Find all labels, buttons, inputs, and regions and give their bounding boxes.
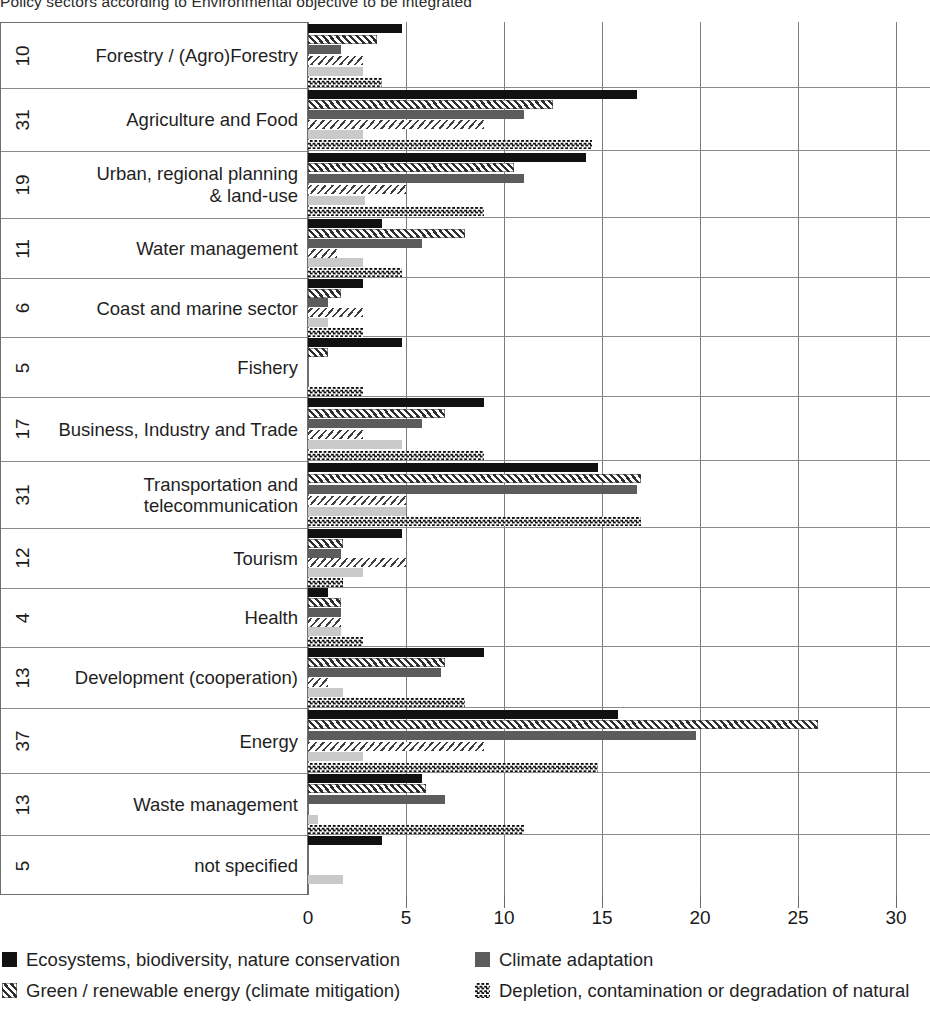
legend-swatch-solid-gray-icon	[475, 952, 490, 967]
category-name: Forestry / (Agro)Forestry	[45, 45, 307, 66]
bar-series-1	[308, 720, 818, 729]
bar-series-2	[308, 549, 341, 558]
bar-group-row	[308, 528, 930, 587]
legend-item-0: Ecosystems, biodiversity, nature conserv…	[2, 949, 400, 971]
bar-series-0	[308, 774, 422, 783]
category-row-label: 5Fishery	[1, 338, 307, 397]
bar-series-2	[308, 298, 328, 307]
bar-series-2	[308, 485, 637, 494]
bar-group-row	[308, 588, 930, 647]
bar-series-3	[308, 120, 484, 129]
bar-series-1	[308, 100, 553, 109]
bar-series-1	[308, 163, 514, 172]
bar-series-1	[308, 289, 341, 298]
category-count: 10	[1, 45, 45, 67]
bar-series-3	[308, 249, 337, 258]
bar-series-1	[308, 474, 641, 483]
bar-series-3	[308, 185, 406, 194]
bar-series-3	[308, 430, 363, 439]
bar-series-3	[308, 496, 406, 505]
category-row-label: 10Forestry / (Agro)Forestry	[1, 23, 307, 89]
bar-series-1	[308, 658, 445, 667]
bar-series-5	[308, 140, 592, 149]
legend-swatch-checkerboard-icon	[475, 983, 490, 998]
category-name: Water management	[45, 238, 307, 259]
bar-series-0	[308, 588, 328, 597]
category-count: 19	[1, 174, 45, 196]
category-name: Development (cooperation)	[45, 667, 307, 688]
bar-series-2	[308, 731, 696, 740]
bar-series-4	[308, 258, 363, 267]
bar-series-0	[308, 463, 598, 472]
category-count: 37	[1, 730, 45, 752]
x-axis: 051015202530	[0, 895, 930, 933]
bar-series-5	[308, 637, 363, 646]
bar-series-4	[308, 440, 402, 449]
category-row-label: 11Water management	[1, 219, 307, 279]
bar-series-4	[308, 67, 363, 76]
category-row-label: 13Waste management	[1, 774, 307, 835]
x-tick-label-0: 0	[303, 907, 314, 929]
bar-series-5	[308, 328, 363, 337]
bar-series-5	[308, 825, 524, 834]
bar-series-4	[308, 318, 328, 327]
category-name: Tourism	[45, 548, 307, 569]
category-label-column: 10Forestry / (Agro)Forestry31Agriculture…	[0, 22, 308, 895]
bar-series-1	[308, 229, 465, 238]
bar-series-4	[308, 507, 406, 516]
bar-series-0	[308, 398, 484, 407]
bar-series-3	[308, 308, 363, 317]
bar-series-1	[308, 598, 341, 607]
bar-series-4	[308, 875, 343, 884]
bar-series-4	[308, 196, 365, 205]
bar-series-5	[308, 207, 484, 216]
bar-series-5	[308, 78, 382, 87]
bar-group-row	[308, 151, 930, 218]
category-row-label: 4Health	[1, 589, 307, 648]
bar-series-4	[308, 815, 318, 824]
bar-series-4	[308, 568, 363, 577]
category-count: 4	[1, 607, 45, 629]
bar-series-1	[308, 784, 426, 793]
x-tick-label-25: 25	[787, 907, 808, 929]
legend-item-3: Depletion, contamination or degradation …	[475, 980, 909, 1002]
legend-item-2: Climate adaptation	[475, 949, 653, 971]
bar-series-2	[308, 795, 445, 804]
bar-series-3	[308, 742, 484, 751]
category-row-label: 17Business, Industry and Trade	[1, 398, 307, 462]
category-name: not specified	[45, 855, 307, 876]
category-name: Agriculture and Food	[45, 109, 307, 130]
bar-series-0	[308, 24, 402, 33]
category-name: Business, Industry and Trade	[45, 419, 307, 440]
chart-title: Policy sectors according to Environmenta…	[0, 0, 620, 13]
bar-group-row	[308, 647, 930, 708]
legend-swatch-solid-black-icon	[2, 952, 17, 967]
bar-series-5	[308, 387, 363, 396]
bar-series-0	[308, 279, 363, 288]
bar-series-0	[308, 648, 484, 657]
bar-series-2	[308, 608, 341, 617]
bar-series-0	[308, 219, 382, 228]
category-row-label: 6Coast and marine sector	[1, 279, 307, 338]
category-row-label: 37Energy	[1, 709, 307, 774]
bar-series-0	[308, 836, 382, 845]
bar-series-3	[308, 56, 363, 65]
bar-series-3	[308, 558, 406, 567]
x-tick-label-5: 5	[401, 907, 412, 929]
bar-series-5	[308, 517, 641, 526]
bar-group-row	[308, 218, 930, 278]
bar-series-5	[308, 578, 343, 587]
bar-series-2	[308, 239, 422, 248]
bar-series-1	[308, 409, 445, 418]
category-name: Health	[45, 607, 307, 628]
bar-series-5	[308, 451, 484, 460]
legend-item-1: Green / renewable energy (climate mitiga…	[2, 980, 400, 1002]
bar-group-row	[308, 337, 930, 396]
bars-column	[308, 22, 930, 895]
bar-series-2	[308, 110, 524, 119]
category-name: Transportation andtelecommunication	[45, 474, 307, 517]
bar-series-4	[308, 627, 341, 636]
x-tick-label-10: 10	[493, 907, 514, 929]
bar-group-row	[308, 835, 930, 895]
legend-label-1: Green / renewable energy (climate mitiga…	[26, 980, 400, 1002]
